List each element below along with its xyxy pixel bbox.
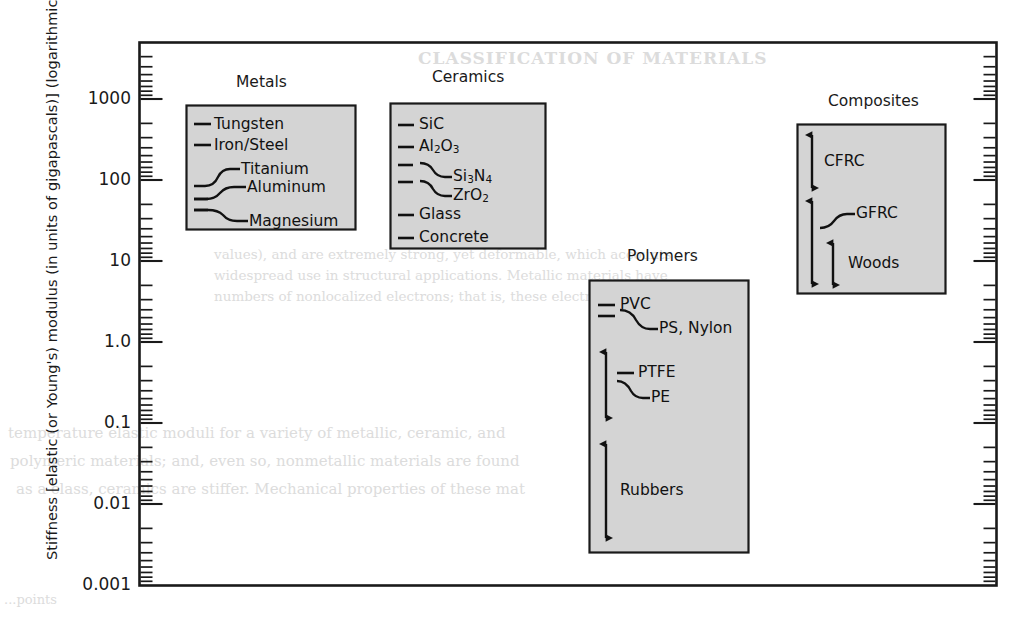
label-pe: PE xyxy=(651,388,670,406)
label-pvc: PVC xyxy=(620,295,651,313)
ceramics-title: Ceramics xyxy=(432,68,504,86)
label-zro2: ZrO2 xyxy=(453,186,489,204)
label-si3n4: Si3N4 xyxy=(453,167,492,185)
label-cfrc: CFRC xyxy=(824,152,865,170)
label-psnylon: PS, Nylon xyxy=(659,319,732,337)
label-woods: Woods xyxy=(848,254,899,272)
label-ptfe: PTFE xyxy=(638,363,676,381)
label-concrete: Concrete xyxy=(419,228,489,246)
figure-canvas: CLASSIFICATION OF MATERIALS values), and… xyxy=(0,0,1027,629)
label-sic: SiC xyxy=(419,115,444,133)
ytick-label-10: 10 xyxy=(59,250,131,270)
label-rubbers: Rubbers xyxy=(620,481,684,499)
ytick-label-0.1: 0.1 xyxy=(59,412,131,432)
y-axis-title: Stiffness [elastic (or Young's) modulus … xyxy=(44,40,60,560)
label-ironsteel: Iron/Steel xyxy=(214,136,288,154)
label-tungsten: Tungsten xyxy=(214,115,284,133)
label-gfrc: GFRC xyxy=(856,204,898,222)
ytick-label-0.01: 0.01 xyxy=(59,493,131,513)
ytick-label-1000: 1000 xyxy=(59,88,131,108)
label-al2o3: Al2O3 xyxy=(419,137,460,155)
composites-title: Composites xyxy=(828,92,919,110)
ytick-label-1.0: 1.0 xyxy=(59,331,131,351)
ytick-label-100: 100 xyxy=(59,169,131,189)
label-aluminum: Aluminum xyxy=(247,178,326,196)
label-magnesium: Magnesium xyxy=(249,212,338,230)
ytick-label-0.001: 0.001 xyxy=(59,574,131,594)
label-glass: Glass xyxy=(419,205,461,223)
polymers-title: Polymers xyxy=(627,247,698,265)
metals-title: Metals xyxy=(236,73,287,91)
label-titanium: Titanium xyxy=(241,160,309,178)
